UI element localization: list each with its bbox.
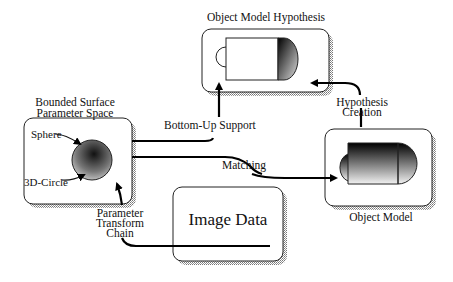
- matching-label: Matching: [222, 159, 266, 171]
- object-model-title: Object Model: [325, 211, 437, 223]
- circle-label: 3D-Circle: [24, 176, 68, 188]
- matching-arrow: [252, 174, 336, 178]
- object-model-box: [325, 129, 436, 210]
- hypothesis-box: [202, 29, 333, 96]
- hyp-creation-label-2: Creation: [330, 106, 394, 118]
- sphere-icon: [72, 140, 112, 180]
- image-data-title: Image Data: [173, 214, 283, 226]
- sphere-label: Sphere: [31, 128, 62, 140]
- diagram-canvas: [0, 0, 453, 282]
- param-space-title-2: Parameter Space: [20, 107, 130, 119]
- bottom-up-line: [132, 138, 213, 141]
- bottom-up-label: Bottom-Up Support: [164, 119, 256, 131]
- hypothesis-title: Object Model Hypothesis: [198, 11, 334, 23]
- param-chain-label-3: Chain: [90, 227, 150, 239]
